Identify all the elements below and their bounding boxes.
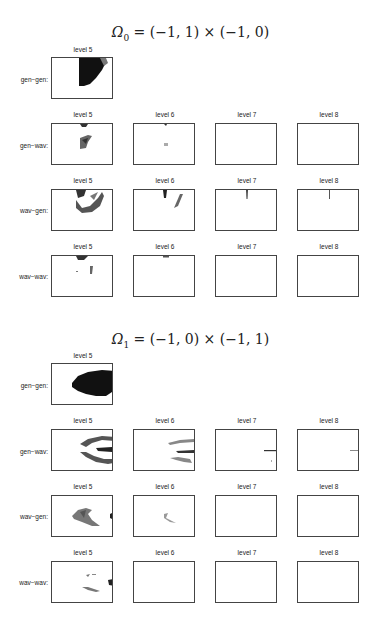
level-label: level 7 bbox=[215, 549, 279, 556]
plot-s0-wavwav-l6 bbox=[133, 255, 195, 297]
level-label: level 7 bbox=[215, 243, 279, 250]
section-title-omega0: Ω0 = (−1, 1) × (−1, 0) bbox=[0, 24, 381, 43]
plot-s1-wavwav-l8 bbox=[297, 561, 359, 603]
plot-s0-genwav-l5 bbox=[51, 123, 113, 165]
level-label: level 5 bbox=[51, 417, 115, 424]
level-label: level 5 bbox=[51, 483, 115, 490]
level-label: level 7 bbox=[215, 483, 279, 490]
plot-s0-wavwav-l5 bbox=[51, 255, 113, 297]
plot-s0-wavgen-l8 bbox=[297, 189, 359, 231]
level-label: level 5 bbox=[51, 352, 115, 359]
plot-s1-wavwav-l7 bbox=[215, 561, 277, 603]
row-label-wav-wav: wav−wav: bbox=[0, 273, 48, 280]
level-label: level 5 bbox=[51, 46, 115, 53]
level-label: level 6 bbox=[133, 243, 197, 250]
level-label: level 5 bbox=[51, 177, 115, 184]
level-label: level 8 bbox=[297, 549, 361, 556]
plot-s1-wavgen-l6 bbox=[133, 495, 195, 537]
plot-s1-wavgen-l7 bbox=[215, 495, 277, 537]
plot-s1-genwav-l5 bbox=[51, 429, 113, 471]
plot-s0-wavgen-l6 bbox=[133, 189, 195, 231]
level-label: level 5 bbox=[51, 243, 115, 250]
plot-s0-wavwav-l7 bbox=[215, 255, 277, 297]
plot-s0-wavgen-l5 bbox=[51, 189, 113, 231]
plot-s1-gengen-l5 bbox=[51, 363, 113, 405]
row-label-gen-gen: gen−gen: bbox=[0, 76, 48, 83]
level-label: level 6 bbox=[133, 549, 197, 556]
plot-s1-wavgen-l8 bbox=[297, 495, 359, 537]
plot-s0-genwav-l7 bbox=[215, 123, 277, 165]
level-label: level 6 bbox=[133, 483, 197, 490]
row-label-gen-wav: gen−wav: bbox=[0, 142, 48, 149]
plot-s1-wavgen-l5 bbox=[51, 495, 113, 537]
level-label: level 7 bbox=[215, 177, 279, 184]
level-label: level 7 bbox=[215, 417, 279, 424]
level-label: level 6 bbox=[133, 177, 197, 184]
level-label: level 7 bbox=[215, 111, 279, 118]
plot-s1-wavwav-l5 bbox=[51, 561, 113, 603]
level-label: level 8 bbox=[297, 483, 361, 490]
title-domain: = (−1, 0) × (−1, 1) bbox=[129, 331, 269, 347]
plot-s1-wavwav-l6 bbox=[133, 561, 195, 603]
plot-s0-wavwav-l8 bbox=[297, 255, 359, 297]
level-label: level 8 bbox=[297, 111, 361, 118]
row-label-wav-gen: wav−gen: bbox=[0, 513, 48, 520]
plot-s1-genwav-l6 bbox=[133, 429, 195, 471]
level-label: level 5 bbox=[51, 549, 115, 556]
plot-s1-genwav-l8 bbox=[297, 429, 359, 471]
row-label-wav-gen: wav−gen: bbox=[0, 207, 48, 214]
level-label: level 8 bbox=[297, 417, 361, 424]
plot-s1-genwav-l7 bbox=[215, 429, 277, 471]
level-label: level 8 bbox=[297, 177, 361, 184]
level-label: level 6 bbox=[133, 417, 197, 424]
omega-symbol: Ω bbox=[112, 331, 124, 347]
row-label-wav-wav: wav−wav: bbox=[0, 579, 48, 586]
plot-s0-wavgen-l7 bbox=[215, 189, 277, 231]
row-label-gen-wav: gen−wav: bbox=[0, 448, 48, 455]
section-title-omega1: Ω1 = (−1, 0) × (−1, 1) bbox=[0, 331, 381, 350]
level-label: level 8 bbox=[297, 243, 361, 250]
plot-s0-genwav-l6 bbox=[133, 123, 195, 165]
omega-symbol: Ω bbox=[112, 24, 124, 40]
plot-s0-genwav-l8 bbox=[297, 123, 359, 165]
plot-s0-gengen-l5 bbox=[51, 57, 113, 99]
level-label: level 6 bbox=[133, 111, 197, 118]
row-label-gen-gen: gen−gen: bbox=[0, 382, 48, 389]
title-domain: = (−1, 1) × (−1, 0) bbox=[129, 24, 269, 40]
level-label: level 5 bbox=[51, 111, 115, 118]
